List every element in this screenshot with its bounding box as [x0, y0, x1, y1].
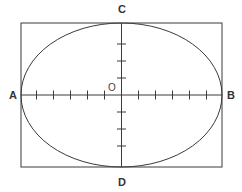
label-point-c: C: [118, 3, 126, 15]
label-point-d: D: [118, 176, 126, 188]
label-point-b: B: [227, 89, 235, 101]
label-origin: O: [108, 82, 116, 93]
ellipse-diagram-figure: A B C D O: [0, 0, 242, 192]
diagram-canvas: A B C D O: [0, 0, 242, 192]
label-point-a: A: [9, 89, 17, 101]
